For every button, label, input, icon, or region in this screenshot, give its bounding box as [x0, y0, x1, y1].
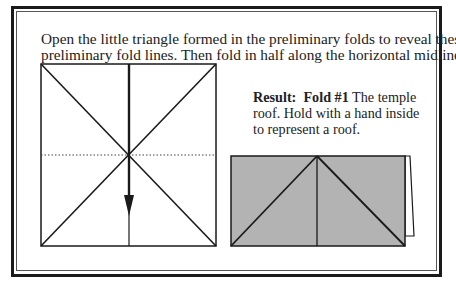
back-flap — [405, 156, 414, 236]
crease-pattern-square — [41, 64, 216, 246]
folded-result-shape — [231, 156, 414, 246]
fold-arrow-head-icon — [124, 195, 134, 216]
diagram-canvas — [0, 0, 456, 283]
